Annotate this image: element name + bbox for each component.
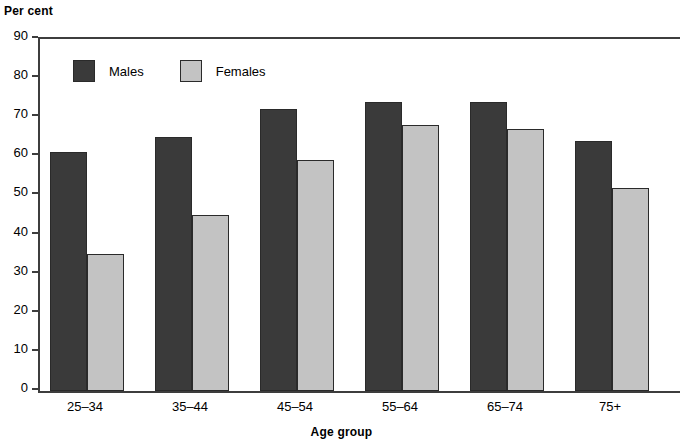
y-axis-tick-label: 50 — [14, 184, 28, 199]
y-axis-tick-mark — [32, 232, 38, 234]
bar-males-25_34 — [50, 152, 87, 391]
legend-entry-males: Males — [73, 60, 144, 82]
legend-swatch-females — [180, 60, 202, 82]
legend-label-females: Females — [216, 64, 266, 79]
bar-males-35_44 — [155, 137, 192, 391]
x-axis-tick-label: 75+ — [570, 399, 650, 414]
legend: MalesFemales — [73, 60, 302, 82]
legend-swatch-males — [73, 60, 95, 82]
bar-males-55_64 — [365, 102, 402, 391]
bar-females-25_34 — [87, 254, 124, 391]
bar-chart: Per cent 0102030405060708090 25–3435–444… — [0, 0, 683, 444]
y-axis-tick-label: 20 — [14, 302, 28, 317]
legend-label-males: Males — [109, 64, 144, 79]
y-axis-tick-label: 90 — [14, 28, 28, 43]
y-axis-tick-mark — [32, 153, 38, 155]
bar-males-75+ — [575, 141, 612, 391]
x-axis-label: Age group — [0, 425, 683, 439]
bar-females-45_54 — [297, 160, 334, 391]
x-axis-tick-label: 45–54 — [255, 399, 335, 414]
bar-males-45_54 — [260, 109, 297, 391]
y-axis-tick-label: 80 — [14, 67, 28, 82]
bar-females-35_44 — [192, 215, 229, 391]
y-axis-tick-label: 10 — [14, 341, 28, 356]
x-axis-tick-label: 55–64 — [360, 399, 440, 414]
y-axis-tick-label: 70 — [14, 106, 28, 121]
bar-males-65_74 — [470, 102, 507, 391]
y-axis-tick-mark — [32, 75, 38, 77]
bar-females-75+ — [612, 188, 649, 391]
x-axis-tick-label: 65–74 — [465, 399, 545, 414]
y-axis-tick-mark — [32, 349, 38, 351]
y-axis-tick-label: 30 — [14, 263, 28, 278]
plot-area — [38, 37, 680, 393]
y-axis-tick-label: 40 — [14, 224, 28, 239]
legend-entry-females: Females — [180, 60, 266, 82]
y-axis-tick-label: 60 — [14, 145, 28, 160]
x-axis-tick-label: 25–34 — [45, 399, 125, 414]
y-axis-tick-mark — [32, 310, 38, 312]
y-axis-tick-mark — [32, 36, 38, 38]
y-axis-tick-mark — [32, 114, 38, 116]
y-axis-tick-label: 0 — [21, 380, 28, 395]
bar-females-65_74 — [507, 129, 544, 391]
y-axis-tick-mark — [32, 271, 38, 273]
x-axis-tick-label: 35–44 — [150, 399, 230, 414]
bar-females-55_64 — [402, 125, 439, 391]
y-axis-label: Per cent — [4, 4, 53, 18]
y-axis-tick-mark — [32, 192, 38, 194]
y-axis-tick-mark — [32, 388, 38, 390]
